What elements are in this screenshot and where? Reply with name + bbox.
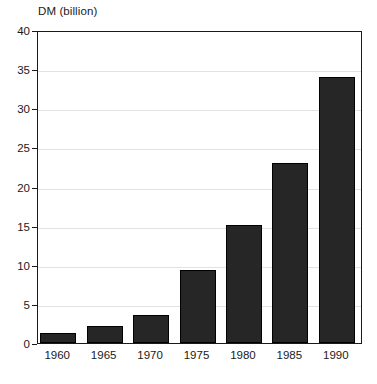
x-axis-tick-label: 1965 bbox=[91, 349, 117, 361]
y-axis-tick-label: 40 bbox=[4, 25, 30, 37]
bar bbox=[226, 225, 262, 343]
gridline bbox=[38, 189, 361, 190]
x-axis-tick-label: 1960 bbox=[44, 349, 70, 361]
bar bbox=[180, 270, 216, 343]
gridline bbox=[38, 267, 361, 268]
y-axis-tick bbox=[32, 344, 37, 345]
bar bbox=[272, 163, 308, 343]
bar bbox=[87, 326, 123, 343]
bar-chart-figure: DM (billion) 0510152025303540 1960196519… bbox=[0, 0, 377, 384]
y-axis-tick-label: 20 bbox=[4, 182, 30, 194]
bar bbox=[319, 77, 355, 343]
x-axis-tick-label: 1980 bbox=[230, 349, 256, 361]
x-axis-tick-label: 1990 bbox=[323, 349, 349, 361]
x-axis-tick-label: 1985 bbox=[277, 349, 303, 361]
plot-area bbox=[37, 31, 362, 344]
y-axis-tick-label: 25 bbox=[4, 142, 30, 154]
gridline bbox=[38, 110, 361, 111]
y-axis-tick-label: 15 bbox=[4, 221, 30, 233]
y-axis-tick-label: 0 bbox=[4, 338, 30, 350]
y-axis-tick-label: 5 bbox=[4, 299, 30, 311]
gridline bbox=[38, 149, 361, 150]
y-axis-tick-label: 35 bbox=[4, 64, 30, 76]
y-axis-unit-label: DM (billion) bbox=[38, 5, 97, 17]
y-axis-tick-label: 10 bbox=[4, 260, 30, 272]
y-axis-labels: 0510152025303540 bbox=[0, 0, 30, 384]
gridline bbox=[38, 71, 361, 72]
x-axis-tick-label: 1970 bbox=[137, 349, 163, 361]
gridline bbox=[38, 228, 361, 229]
y-axis-tick-label: 30 bbox=[4, 103, 30, 115]
bar bbox=[40, 333, 76, 343]
bar bbox=[133, 315, 169, 343]
x-axis-tick-label: 1975 bbox=[184, 349, 210, 361]
